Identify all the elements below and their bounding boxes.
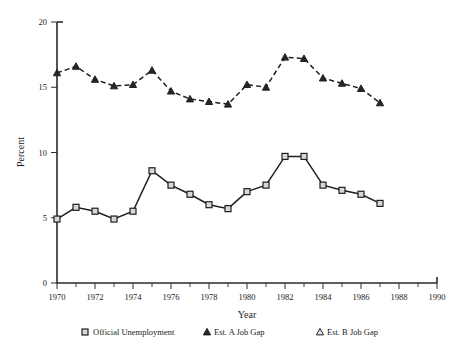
data-point-marker [149, 168, 155, 174]
data-point-marker [187, 191, 193, 197]
data-point-marker [358, 191, 364, 197]
data-point-marker [319, 75, 326, 81]
x-tick-label-1982: 1982 [277, 292, 294, 302]
data-point-marker [301, 153, 307, 159]
y-axis-tick-labels: 0 5 10 15 20 [39, 17, 48, 288]
x-axis-title: Year [238, 309, 257, 320]
y-tick-label-0: 0 [43, 278, 47, 288]
x-tick-label-1984: 1984 [315, 292, 333, 302]
chart-figure: 0 5 10 15 20 Percent [0, 0, 460, 337]
x-axis-tick-labels: 1970 1972 1974 1976 1978 1980 1982 1984 … [49, 292, 446, 302]
series-2 [54, 153, 383, 222]
data-point-marker [262, 84, 269, 90]
data-point-marker [91, 76, 98, 82]
legend-marker-triangle [203, 328, 210, 335]
axes [57, 22, 437, 283]
data-point-marker [377, 200, 383, 206]
series-1 [53, 54, 383, 107]
y-axis-title: Percent [15, 137, 26, 167]
legend-entry-1: Official Unemployment [82, 327, 175, 337]
data-point-marker [282, 153, 288, 159]
data-point-marker [92, 208, 98, 214]
data-point-marker [168, 182, 174, 188]
data-point-marker [225, 206, 231, 212]
data-point-marker [281, 54, 288, 60]
chart-svg: 0 5 10 15 20 Percent [0, 0, 460, 337]
x-tick-label-1986: 1986 [353, 292, 370, 302]
data-point-marker [72, 63, 79, 69]
series-line-2 [57, 156, 380, 219]
x-tick-label-1980: 1980 [239, 292, 256, 302]
x-tick-label-1976: 1976 [163, 292, 180, 302]
data-point-marker [148, 67, 155, 73]
data-point-marker [167, 88, 174, 94]
chart-legend: Official UnemploymentEst. A Job GapEst. … [82, 327, 378, 337]
x-tick-label-1988: 1988 [391, 292, 408, 302]
data-point-marker [111, 216, 117, 222]
y-tick-label-5: 5 [43, 213, 47, 223]
y-tick-label-10: 10 [39, 148, 48, 158]
x-tick-label-1970: 1970 [49, 292, 66, 302]
data-point-marker [339, 187, 345, 193]
legend-label: Est. A Job Gap [214, 327, 265, 337]
legend-entry-2: Est. A Job Gap [203, 327, 264, 337]
legend-label: Official Unemployment [93, 327, 175, 337]
y-tick-label-20: 20 [39, 17, 48, 27]
legend-entry-3: Est. B Job Gap [316, 327, 378, 337]
x-tick-label-1972: 1972 [87, 292, 104, 302]
data-point-marker [130, 208, 136, 214]
data-series-layer [53, 54, 383, 222]
legend-marker-triangle-open [316, 328, 323, 335]
data-point-marker [73, 204, 79, 210]
y-tick-label-15: 15 [39, 82, 48, 92]
data-point-marker [206, 202, 212, 208]
data-point-marker [263, 182, 269, 188]
data-point-marker [320, 182, 326, 188]
data-point-marker [54, 216, 60, 222]
y-axis-ticks [51, 22, 57, 283]
data-point-marker [244, 189, 250, 195]
data-point-marker [357, 85, 364, 91]
x-tick-label-1990: 1990 [429, 292, 446, 302]
x-tick-label-1978: 1978 [201, 292, 218, 302]
x-tick-label-1974: 1974 [125, 292, 143, 302]
legend-label: Est. B Job Gap [327, 327, 378, 337]
axis-lines [57, 22, 437, 283]
legend-marker-square [82, 329, 88, 335]
series-line-1 [57, 57, 380, 104]
